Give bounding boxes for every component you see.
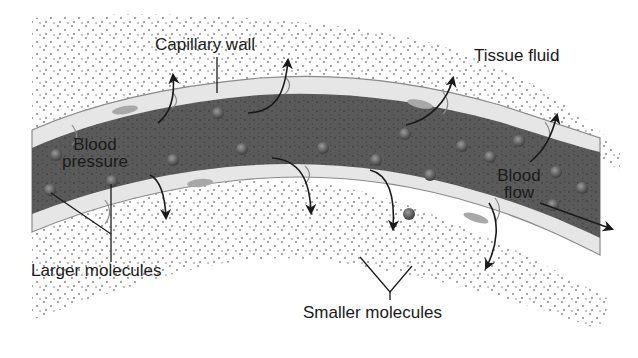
tissue-fluid-label: Tissue fluid: [474, 46, 559, 65]
capillary-exchange-diagram: Capillary wall Tissue fluid Blood pressu…: [0, 0, 638, 358]
smaller-molecules-label: Smaller molecules: [303, 303, 442, 322]
capillary-wall-label: Capillary wall: [155, 35, 255, 54]
blood-flow-label-line2: flow: [504, 183, 535, 202]
larger-molecules-label: Larger molecules: [31, 261, 161, 280]
blood-pressure-label-line2: pressure: [62, 152, 128, 171]
